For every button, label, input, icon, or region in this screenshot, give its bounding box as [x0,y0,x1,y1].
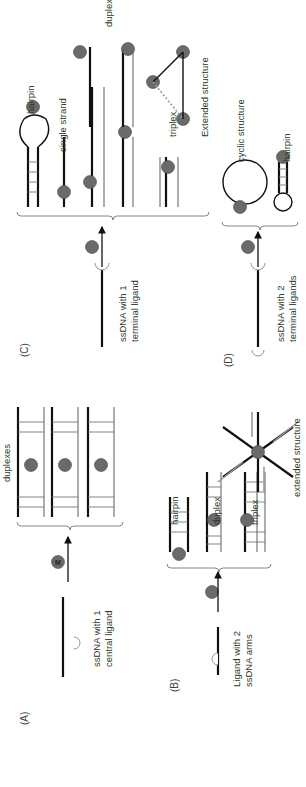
ligand-icon [212,653,218,665]
hairpin-label: hairpin [25,85,36,114]
figure-canvas: (A) ssDNA with 1 central ligand M [0,0,306,787]
metal-ion-icon [86,241,99,254]
triplex-product [160,157,178,207]
panel-d-label: (D) [223,353,234,367]
triplex-label: triplex [249,499,260,525]
panel-c-label: (C) [19,343,30,357]
terminal-ligand-icon [252,350,264,356]
duplex-label: duplex [211,497,222,525]
duplex-products [18,407,114,517]
hairpin-product [20,101,49,208]
product-brace [17,522,123,530]
panel-b-label: (B) [169,679,180,692]
extended-structure-label: extended structure [291,418,302,497]
duplexes-product [74,43,135,208]
central-ligand-icon [74,637,80,649]
panel-d: (D) ssDNA with 2 terminal ligands cyclic… [222,99,298,367]
svg-text:M: M [55,559,61,566]
panel-a: (A) ssDNA with 1 central ligand M [1,407,123,725]
duplexes-label: duplexes [1,444,12,482]
panel-a-start-label-1: ssDNA with 1 [91,611,102,668]
duplexes-label: duplexes [103,0,114,27]
single-strand-label: single strand [57,98,68,152]
panel-c: (C) ssDNA with 1 terminal ligand hairpin… [17,0,210,357]
triplex-label: triplex [167,111,178,137]
panel-a-label: (A) [19,712,30,725]
metal-ion-icon [242,241,255,254]
hairpin-label: hairpin [169,496,180,525]
hairpin-label: hairpin [281,133,292,162]
panel-b-start-label-2: ssDNA arms [243,634,254,687]
panel-a-start-label-2: central ligand [103,610,114,667]
metal-ion-icon: M [52,556,65,569]
panel-d-start-label-2: terminal ligands [287,275,298,342]
panel-d-start-label-1: ssDNA with 2 [275,286,286,343]
extended-structure-label: Extended structure [199,57,210,137]
metal-ion-icon [206,586,219,599]
panel-b-start-label-1: Ligand with 2 [231,631,242,687]
panel-c-start-label-2: terminal ligand [129,280,140,342]
cyclic-structure-product [223,160,267,214]
extended-structure-product [218,412,298,492]
cyclic-structure-label: cyclic structure [235,99,246,162]
panel-b: (B) Ligand with 2 ssDNA arms hairpin dup… [167,412,302,692]
panel-c-start-label-1: ssDNA with 1 [117,286,128,343]
